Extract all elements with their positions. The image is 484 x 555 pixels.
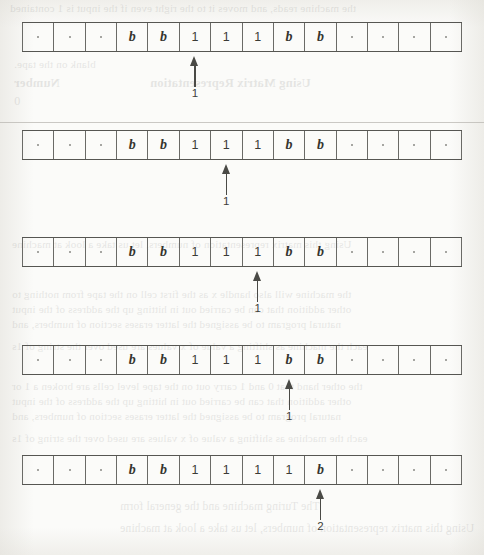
tape-cell: 1: [180, 23, 211, 51]
tape-cell: b: [305, 238, 336, 266]
symbol-b: b: [129, 244, 136, 260]
symbol-b: b: [129, 29, 136, 45]
tape-cell: 1: [211, 23, 242, 51]
blank-cell-marker: [100, 36, 102, 38]
tape-cell: b: [274, 238, 305, 266]
head-state-label: 1: [246, 302, 270, 314]
tape-cell: b: [305, 23, 336, 51]
blank-cell-marker: [37, 36, 39, 38]
blank-cell-marker: [69, 36, 71, 38]
blank-cell-marker: [413, 144, 415, 146]
tape-cell: [399, 23, 430, 51]
head-state-label: 1: [277, 410, 301, 422]
tape-cell: 1: [211, 346, 242, 374]
tape-cell: 1: [180, 131, 211, 159]
head-state-label: 1: [183, 87, 207, 99]
tape: bb111bb: [22, 22, 462, 52]
tape-cell: [431, 346, 462, 374]
symbol-b: b: [160, 137, 167, 153]
blank-cell-marker: [413, 469, 415, 471]
symbol-b: b: [129, 462, 136, 478]
tape-cell: [431, 238, 462, 266]
blank-cell-marker: [382, 469, 384, 471]
tape-cell: 1: [180, 238, 211, 266]
symbol-b: b: [317, 352, 324, 368]
tape-cell: 1: [243, 346, 274, 374]
tape-cell: b: [148, 456, 179, 484]
blank-cell-marker: [413, 251, 415, 253]
arrow-shaft: [194, 64, 195, 87]
tape-cell: [399, 346, 430, 374]
tape-cell: 1: [180, 346, 211, 374]
tape-cell: 1: [243, 456, 274, 484]
symbol-one: 1: [223, 245, 230, 259]
blank-cell-marker: [37, 251, 39, 253]
tape-cell: [22, 23, 54, 51]
tape-cell: b: [117, 238, 148, 266]
tape-cell: [368, 238, 399, 266]
blank-cell-marker: [382, 251, 384, 253]
tape-cell: b: [117, 23, 148, 51]
tape-cell: [86, 238, 117, 266]
symbol-one: 1: [223, 463, 230, 477]
tape-cell: b: [148, 23, 179, 51]
tape-cell: [431, 456, 462, 484]
arrow-shaft: [257, 279, 258, 302]
tape-cell: [337, 131, 368, 159]
symbol-b: b: [317, 462, 324, 478]
blank-cell-marker: [413, 36, 415, 38]
blank-cell-marker: [69, 251, 71, 253]
tape-cell: [54, 238, 85, 266]
blank-cell-marker: [445, 36, 447, 38]
tape-cell: [54, 131, 85, 159]
tape-cell: b: [117, 346, 148, 374]
tape-cell: [22, 346, 54, 374]
tape-cell: 1: [243, 131, 274, 159]
blank-cell-marker: [351, 36, 353, 38]
tape-cell: [368, 23, 399, 51]
arrow-shaft: [320, 497, 321, 520]
tape-cell: 1: [211, 238, 242, 266]
head-state-label: 1: [214, 195, 238, 207]
blank-cell-marker: [445, 469, 447, 471]
arrow-shaft: [226, 172, 227, 195]
tape-cell: b: [148, 346, 179, 374]
tape-cell: b: [305, 131, 336, 159]
blank-cell-marker: [37, 359, 39, 361]
symbol-b: b: [317, 29, 324, 45]
tape-cell: b: [148, 131, 179, 159]
tape-cell: [22, 238, 54, 266]
tape-cell: [22, 131, 54, 159]
tape-cell: [337, 238, 368, 266]
symbol-b: b: [286, 29, 293, 45]
tape-cell: [431, 23, 462, 51]
symbol-b: b: [160, 462, 167, 478]
tape-cell: [86, 23, 117, 51]
blank-cell-marker: [445, 359, 447, 361]
symbol-one: 1: [192, 245, 199, 259]
tape-cell: [337, 456, 368, 484]
tape: bb111bb: [22, 345, 462, 375]
blank-cell-marker: [100, 359, 102, 361]
symbol-one: 1: [223, 353, 230, 367]
blank-cell-marker: [37, 144, 39, 146]
blank-cell-marker: [351, 359, 353, 361]
tape-cell: [368, 456, 399, 484]
tape-cell: 1: [211, 456, 242, 484]
blank-cell-marker: [351, 469, 353, 471]
tape-cell: 1: [243, 23, 274, 51]
symbol-b: b: [129, 137, 136, 153]
tape-cell: [399, 238, 430, 266]
blank-cell-marker: [69, 359, 71, 361]
symbol-one: 1: [192, 30, 199, 44]
blank-cell-marker: [382, 144, 384, 146]
blank-cell-marker: [69, 144, 71, 146]
symbol-b: b: [286, 352, 293, 368]
tape-cell: [22, 456, 54, 484]
tape-cell: [431, 131, 462, 159]
tape-cell: 1: [211, 131, 242, 159]
symbol-b: b: [286, 137, 293, 153]
symbol-b: b: [317, 137, 324, 153]
symbol-b: b: [160, 352, 167, 368]
tape-cell: [368, 346, 399, 374]
